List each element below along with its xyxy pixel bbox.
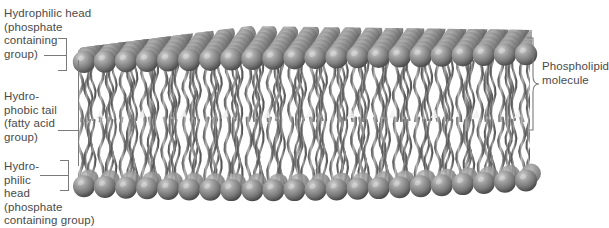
label-hydrophilic-head-bottom: Hydro- philic head (phosphate containing… <box>4 160 95 228</box>
brace-phospholipid <box>527 38 539 130</box>
label-hydrophilic-head-top: Hydrophilic head (phosphate containing g… <box>4 7 91 61</box>
label-hydrophobic-tail: Hydro- phobic tail (fatty acid group) <box>4 90 57 144</box>
label-phospholipid-molecule: Phospholipid molecule <box>542 60 609 87</box>
